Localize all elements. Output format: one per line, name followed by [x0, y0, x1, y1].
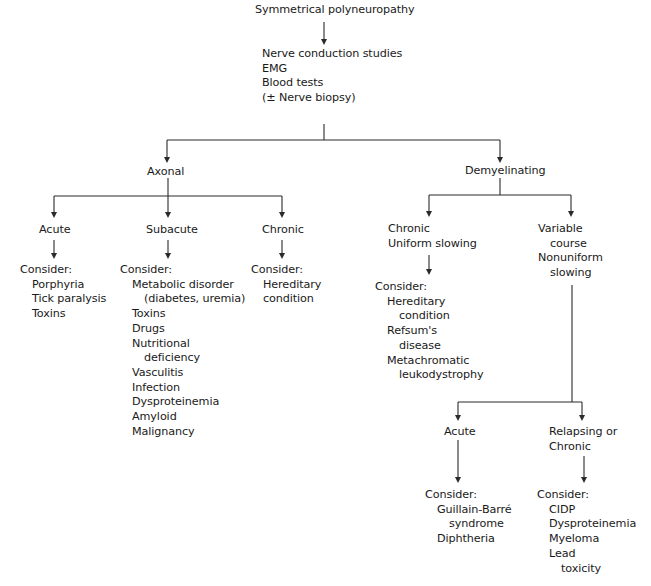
consider-item: Hereditary	[375, 295, 484, 310]
axonal-subacute-label: Subacute	[146, 223, 198, 238]
consider-label: Consider:	[537, 488, 636, 503]
consider-label: Consider:	[425, 488, 512, 503]
chronic-label: Uniform slowing	[388, 237, 477, 252]
consider-item: Porphyria	[20, 278, 106, 293]
test-item: (± Nerve biopsy)	[262, 91, 402, 106]
demyelinating-acute-node: Acute	[444, 425, 475, 440]
variable-label: course	[538, 237, 603, 252]
consider-item: CIDP	[537, 503, 636, 518]
axonal-acute-consider: Consider: Porphyria Tick paralysis Toxin…	[20, 263, 106, 322]
consider-item: Tick paralysis	[20, 292, 106, 307]
relapsing-label: Chronic	[549, 440, 617, 455]
consider-item: Infection	[120, 381, 245, 396]
consider-item: Myeloma	[537, 532, 636, 547]
tests-node: Nerve conduction studies EMG Blood tests…	[262, 47, 402, 106]
consider-item: Toxins	[20, 307, 106, 322]
consider-item: Nutritional	[120, 337, 245, 352]
demyelinating-chronic-consider: Consider: Hereditary condition Refsum's …	[375, 280, 484, 383]
consider-item: condition	[251, 292, 321, 307]
root-label: Symmetrical polyneuropathy	[255, 3, 415, 18]
axonal-chronic-label: Chronic	[262, 223, 304, 238]
root-node: Symmetrical polyneuropathy	[255, 3, 415, 18]
variable-label: Variable	[538, 222, 603, 237]
demyelinating-node: Demyelinating	[465, 164, 545, 179]
demyelinating-relapsing-consider: Consider: CIDP Dysproteinemia Myeloma Le…	[537, 488, 636, 576]
consider-item: Lead	[537, 547, 636, 562]
test-item: EMG	[262, 62, 402, 77]
axonal-chronic-consider: Consider: Hereditary condition	[251, 263, 321, 307]
consider-item: Metachromatic	[375, 354, 484, 369]
demyelinating-label: Demyelinating	[465, 164, 545, 179]
consider-item: (diabetes, uremia)	[120, 292, 245, 307]
axonal-acute-node: Acute	[39, 223, 70, 238]
consider-item: disease	[375, 339, 484, 354]
consider-item: Dysproteinemia	[537, 517, 636, 532]
consider-item: Vasculitis	[120, 366, 245, 381]
consider-item: Drugs	[120, 322, 245, 337]
consider-item: Refsum's	[375, 324, 484, 339]
consider-item: deficiency	[120, 351, 245, 366]
consider-item: Diphtheria	[425, 532, 512, 547]
axonal-subacute-node: Subacute	[146, 223, 198, 238]
consider-item: Guillain-Barré	[425, 503, 512, 518]
variable-label: slowing	[538, 266, 603, 281]
consider-item: toxicity	[537, 562, 636, 577]
consider-item: condition	[375, 309, 484, 324]
demyelinating-acute-consider: Consider: Guillain-Barré syndrome Diphth…	[425, 488, 512, 547]
test-item: Blood tests	[262, 76, 402, 91]
consider-item: Amyloid	[120, 410, 245, 425]
consider-item: Metabolic disorder	[120, 278, 245, 293]
demyelinating-variable-node: Variable course Nonuniform slowing	[538, 222, 603, 281]
demyelinating-relapsing-node: Relapsing or Chronic	[549, 425, 617, 454]
consider-item: Malignancy	[120, 425, 245, 440]
axonal-chronic-node: Chronic	[262, 223, 304, 238]
consider-item: Dysproteinemia	[120, 395, 245, 410]
axonal-node: Axonal	[147, 165, 184, 180]
consider-item: syndrome	[425, 517, 512, 532]
consider-label: Consider:	[20, 263, 106, 278]
variable-label: Nonuniform	[538, 251, 603, 266]
consider-label: Consider:	[120, 263, 245, 278]
chronic-label: Chronic	[388, 222, 477, 237]
consider-item: Hereditary	[251, 278, 321, 293]
axonal-acute-label: Acute	[39, 223, 70, 238]
consider-item: Toxins	[120, 307, 245, 322]
axonal-subacute-consider: Consider: Metabolic disorder (diabetes, …	[120, 263, 245, 439]
demyelinating-chronic-node: Chronic Uniform slowing	[388, 222, 477, 251]
relapsing-label: Relapsing or	[549, 425, 617, 440]
acute-label: Acute	[444, 425, 475, 440]
consider-label: Consider:	[375, 280, 484, 295]
test-item: Nerve conduction studies	[262, 47, 402, 62]
consider-label: Consider:	[251, 263, 321, 278]
axonal-label: Axonal	[147, 165, 184, 180]
consider-item: leukodystrophy	[375, 368, 484, 383]
